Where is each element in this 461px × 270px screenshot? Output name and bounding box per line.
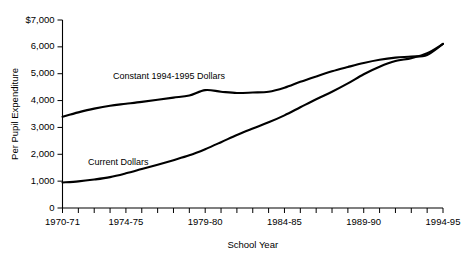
- x-axis-tick-label: 1974-75: [108, 216, 143, 227]
- y-axis-tick-label: 0: [49, 202, 54, 213]
- x-axis-tick-labels: 1970-711974-751979-801984-851989-901994-…: [45, 216, 460, 227]
- y-axis: 01,0002,0003,0004,0005,0006,000$7,000 Pe…: [9, 14, 63, 213]
- y-axis-tick-label: 1,000: [31, 175, 55, 186]
- x-axis-tick-label: 1970-71: [45, 216, 80, 227]
- x-axis: 1970-711974-751979-801984-851989-901994-…: [45, 208, 460, 250]
- series-label-2: Current Dollars: [88, 157, 149, 167]
- y-axis-tick-labels: 01,0002,0003,0004,0005,0006,000$7,000: [25, 14, 54, 213]
- series-label-1: Constant 1994-1995 Dollars: [113, 71, 226, 81]
- series-annotations: Constant 1994-1995 DollarsCurrent Dollar…: [88, 71, 226, 167]
- y-axis-tick-label: $7,000: [25, 14, 54, 25]
- chart-container: 01,0002,0003,0004,0005,0006,000$7,000 Pe…: [0, 0, 461, 270]
- y-axis-tick-label: 3,000: [31, 121, 55, 132]
- y-axis-tick-label: 5,000: [31, 67, 55, 78]
- y-axis-tick-label: 4,000: [31, 94, 55, 105]
- line-chart: 01,0002,0003,0004,0005,0006,000$7,000 Pe…: [0, 0, 461, 270]
- y-axis-tick-label: 6,000: [31, 40, 55, 51]
- x-axis-tick-label: 1989-90: [346, 216, 381, 227]
- x-axis-tick-label: 1984-85: [267, 216, 302, 227]
- x-axis-tick-label: 1994-95: [426, 216, 461, 227]
- x-axis-title: School Year: [227, 239, 278, 250]
- x-axis-ticks: [63, 208, 444, 213]
- y-axis-tick-label: 2,000: [31, 148, 55, 159]
- x-axis-tick-label: 1979-80: [188, 216, 223, 227]
- y-axis-title: Per Pupil Expenditure: [9, 68, 20, 160]
- y-axis-ticks: [58, 20, 63, 208]
